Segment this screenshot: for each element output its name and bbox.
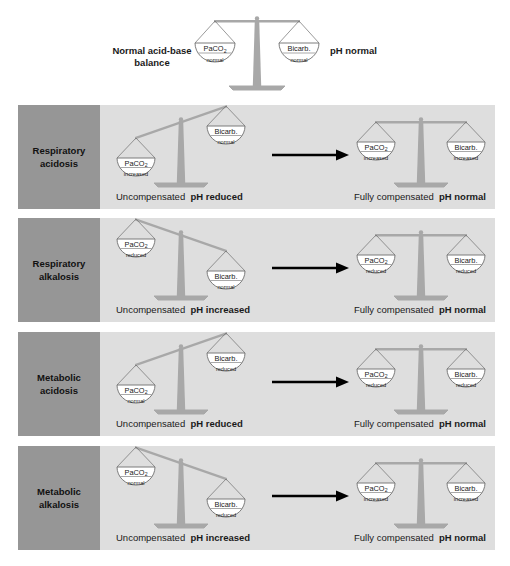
scale-metabolic-acidosis-compensated: PaCO2reducedBicarb.reduced xyxy=(358,338,484,416)
row-side-label-line1: Metabolic xyxy=(37,372,81,383)
scale-respiratory-alkalosis-uncompensated-right-pan-state: normal xyxy=(217,284,234,290)
arrow-right-icon xyxy=(272,261,350,279)
caption-ph-status: pH reduced xyxy=(190,418,242,429)
scale-respiratory-acidosis-uncompensated-left-pan: PaCO2increased xyxy=(117,138,155,177)
row-body: PaCO2reducedBicarb.normalUncompensated p… xyxy=(100,218,495,322)
scale-metabolic-acidosis-compensated-left-pan-main: PaCO2 xyxy=(364,370,387,380)
caption-compensation-state: Uncompensated xyxy=(116,418,185,429)
scale-metabolic-alkalosis-uncompensated-right-pan: Bicarb.reduced xyxy=(207,479,245,518)
row-respiratory-acidosis: Respiratory acidosis PaCO2increasedBicar… xyxy=(18,105,495,209)
row-respiratory-alkalosis: Respiratory alkalosis PaCO2reducedBicarb… xyxy=(18,218,495,322)
header-scale-left-pan-state: normal xyxy=(206,57,223,63)
row-side-label-line2: alkalosis xyxy=(39,498,79,509)
caption-ph-status: pH normal xyxy=(439,304,486,315)
caption-compensation-state: Fully compensated xyxy=(354,418,434,429)
scale-metabolic-alkalosis-uncompensated: PaCO2normalBicarb.reduced xyxy=(118,452,244,530)
row-side-label: Metabolic alkalosis xyxy=(18,486,100,511)
scale-respiratory-acidosis-uncompensated-left-pan-main: PaCO2 xyxy=(124,159,147,169)
scale-metabolic-alkalosis-compensated-right-pan: Bicarb.increased xyxy=(447,463,485,502)
scale-metabolic-alkalosis-compensated: PaCO2increasedBicarb.increased xyxy=(358,452,484,530)
caption-respiratory-acidosis-uncompensated: Uncompensated pH reduced xyxy=(116,191,243,203)
scale-metabolic-acidosis-compensated-right-pan: Bicarb.reduced xyxy=(447,349,485,388)
scale-respiratory-alkalosis-compensated-left-pan: PaCO2reduced xyxy=(357,235,395,274)
scale-respiratory-acidosis-compensated-left-pan-state: increased xyxy=(364,155,388,161)
scale-respiratory-alkalosis-compensated: PaCO2reducedBicarb.reduced xyxy=(358,224,484,302)
header-left-label-line2: balance xyxy=(134,57,169,68)
header-normal-balance: Normal acid-base balance pH normal PaCO2… xyxy=(0,0,510,100)
scale-metabolic-alkalosis-compensated-right-pan-main: Bicarb. xyxy=(454,484,477,493)
header-scale-left-pan-main: PaCO2 xyxy=(203,44,226,54)
scale-metabolic-alkalosis-uncompensated-right-pan-main: Bicarb. xyxy=(214,500,237,509)
row-body: PaCO2normalBicarb.reducedUncompensated p… xyxy=(100,332,495,436)
scale-respiratory-acidosis-compensated-left-pan: PaCO2increased xyxy=(357,122,395,161)
caption-respiratory-alkalosis-compensated: Fully compensated pH normal xyxy=(354,304,486,316)
scale-respiratory-acidosis-compensated-left-pan-main: PaCO2 xyxy=(364,143,387,153)
scale-respiratory-alkalosis-uncompensated-right-pan: Bicarb.normal xyxy=(207,251,245,290)
scale-metabolic-acidosis-uncompensated-right-pan-state: reduced xyxy=(216,366,236,372)
scale-metabolic-alkalosis-compensated-left-pan: PaCO2increased xyxy=(357,463,395,502)
scale-respiratory-acidosis-uncompensated-right-pan-state: normal xyxy=(217,139,234,145)
scale-metabolic-alkalosis-uncompensated-left-pan-main: PaCO2 xyxy=(124,468,147,478)
scale-metabolic-acidosis-uncompensated: PaCO2normalBicarb.reduced xyxy=(118,338,244,416)
header-scale-right-pan-main: Bicarb. xyxy=(287,44,310,53)
row-body: PaCO2normalBicarb.reducedUncompensated p… xyxy=(100,446,495,550)
caption-metabolic-acidosis-compensated: Fully compensated pH normal xyxy=(354,418,486,430)
scale-metabolic-alkalosis-compensated-right-pan-state: increased xyxy=(454,496,478,502)
scale-respiratory-acidosis-compensated-right-pan-state: increased xyxy=(454,155,478,161)
caption-compensation-state: Uncompensated xyxy=(116,191,185,202)
caption-ph-status: pH increased xyxy=(190,532,250,543)
caption-metabolic-acidosis-uncompensated: Uncompensated pH reduced xyxy=(116,418,243,430)
caption-ph-status: pH normal xyxy=(439,418,486,429)
header-scale-right-pan: Bicarb.normal xyxy=(279,21,319,63)
header-scale-left-pan: PaCO2normal xyxy=(195,21,235,63)
scale-metabolic-acidosis-compensated-left-pan: PaCO2reduced xyxy=(357,349,395,388)
caption-ph-status: pH reduced xyxy=(190,191,242,202)
scale-respiratory-acidosis-uncompensated-right-pan-main: Bicarb. xyxy=(214,127,237,136)
arrow-right-icon xyxy=(272,375,350,393)
figure-root: Normal acid-base balance pH normal PaCO2… xyxy=(0,0,510,566)
scale-respiratory-acidosis-compensated-right-pan-main: Bicarb. xyxy=(454,143,477,152)
row-side-label: Metabolic acidosis xyxy=(18,372,100,397)
scale-metabolic-acidosis-compensated-right-pan-main: Bicarb. xyxy=(454,370,477,379)
row-side-label: Respiratory alkalosis xyxy=(18,258,100,283)
scale-respiratory-alkalosis-compensated-right-pan: Bicarb.reduced xyxy=(447,235,485,274)
scale-respiratory-alkalosis-compensated-left-pan-state: reduced xyxy=(366,268,386,274)
scale-respiratory-acidosis-uncompensated-left-pan-state: increased xyxy=(124,171,148,177)
row-side-label-line2: acidosis xyxy=(40,384,78,395)
caption-compensation-state: Fully compensated xyxy=(354,532,434,543)
row-side-label-line1: Metabolic xyxy=(37,486,81,497)
scale-respiratory-alkalosis-uncompensated-left-pan-state: reduced xyxy=(126,252,146,258)
scale-respiratory-alkalosis-compensated-right-pan-state: reduced xyxy=(456,268,476,274)
caption-compensation-state: Uncompensated xyxy=(116,532,185,543)
row-body: PaCO2increasedBicarb.normalUncompensated… xyxy=(100,105,495,209)
scale-metabolic-acidosis-uncompensated-left-pan: PaCO2normal xyxy=(117,365,155,404)
scale-respiratory-alkalosis-uncompensated-right-pan-main: Bicarb. xyxy=(214,272,237,281)
row-side-label: Respiratory acidosis xyxy=(18,145,100,170)
scale-metabolic-alkalosis-uncompensated-left-pan-state: normal xyxy=(127,480,144,486)
scale-metabolic-acidosis-uncompensated-left-pan-main: PaCO2 xyxy=(124,386,147,396)
caption-compensation-state: Fully compensated xyxy=(354,191,434,202)
header-left-label: Normal acid-base balance xyxy=(96,45,208,69)
arrow-right-icon xyxy=(272,489,350,507)
row-side-label-line1: Respiratory xyxy=(33,258,86,269)
row-side-label-line1: Respiratory xyxy=(33,145,86,156)
caption-compensation-state: Fully compensated xyxy=(354,304,434,315)
scale-metabolic-acidosis-uncompensated-right-pan-main: Bicarb. xyxy=(214,354,237,363)
header-left-label-line1: Normal acid-base xyxy=(112,45,191,56)
arrow-right-icon xyxy=(272,148,350,166)
scale-respiratory-alkalosis-uncompensated: PaCO2reducedBicarb.normal xyxy=(118,224,244,302)
row-side-metabolic-acidosis: Metabolic acidosis xyxy=(18,332,100,436)
scale-metabolic-alkalosis-compensated-left-pan-main: PaCO2 xyxy=(364,484,387,494)
scale-respiratory-acidosis-compensated-right-pan: Bicarb.increased xyxy=(447,122,485,161)
scale-metabolic-acidosis-compensated-left-pan-state: reduced xyxy=(366,382,386,388)
scale-respiratory-acidosis-compensated: PaCO2increasedBicarb.increased xyxy=(358,111,484,189)
scale-metabolic-alkalosis-uncompensated-right-pan-state: reduced xyxy=(216,512,236,518)
scale-header: PaCO2normalBicarb.normal xyxy=(198,12,316,92)
scale-respiratory-acidosis-uncompensated: PaCO2increasedBicarb.normal xyxy=(118,111,244,189)
row-side-respiratory-alkalosis: Respiratory alkalosis xyxy=(18,218,100,322)
row-side-label-line2: alkalosis xyxy=(39,270,79,281)
caption-ph-status: pH increased xyxy=(190,304,250,315)
scale-metabolic-acidosis-uncompensated-left-pan-state: normal xyxy=(127,398,144,404)
caption-ph-status: pH normal xyxy=(439,191,486,202)
row-side-label-line2: acidosis xyxy=(40,157,78,168)
